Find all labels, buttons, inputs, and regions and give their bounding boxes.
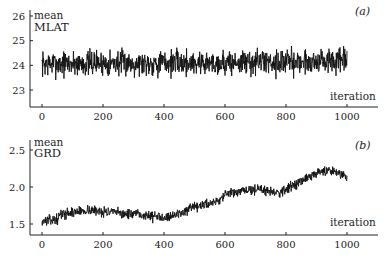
y-tick-label: 24 — [12, 60, 25, 71]
y-tick-label: 2.0 — [9, 182, 25, 193]
panel-label: (a) — [355, 5, 370, 18]
x-tick-label: 600 — [215, 239, 234, 250]
x-tick-label: 0 — [39, 239, 45, 250]
panel-label: (b) — [355, 139, 371, 152]
x-tick-label: 1000 — [334, 239, 359, 250]
y-tick-label: 23 — [12, 85, 25, 96]
y-tick-label: 2.5 — [9, 145, 25, 156]
data-series — [42, 46, 347, 80]
x-tick-label: 800 — [276, 111, 295, 122]
data-series — [42, 167, 347, 226]
x-tick-label: 400 — [154, 111, 173, 122]
panel-b-grd: 1.52.02.5 02004006008001000 mean GRD ite… — [9, 136, 378, 250]
y-label-line2: GRD — [34, 146, 61, 160]
y-ticks: 1.52.02.5 — [9, 145, 33, 230]
x-tick-label: 200 — [93, 239, 112, 250]
x-tick-label: 600 — [215, 111, 234, 122]
x-label: iteration — [330, 90, 376, 102]
y-tick-label: 26 — [12, 11, 25, 22]
panel-a-mlat: 23242526 02004006008001000 mean MLAT ite… — [12, 5, 378, 122]
figure: 23242526 02004006008001000 mean MLAT ite… — [0, 0, 385, 260]
x-tick-label: 200 — [93, 111, 112, 122]
x-tick-label: 400 — [154, 239, 173, 250]
y-label-line2: MLAT — [34, 20, 69, 34]
x-tick-label: 1000 — [334, 111, 359, 122]
y-tick-label: 25 — [12, 35, 25, 46]
x-tick-label: 800 — [276, 239, 295, 250]
y-tick-label: 1.5 — [9, 219, 25, 230]
x-tick-label: 0 — [39, 111, 45, 122]
x-label: iteration — [330, 216, 376, 228]
